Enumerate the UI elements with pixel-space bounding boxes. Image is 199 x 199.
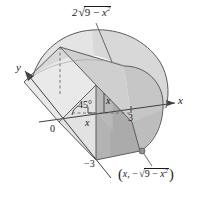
top-expression-radical: √9 − x2 <box>78 6 112 19</box>
label-tick-3: 3 <box>128 113 133 123</box>
label-height-x: x <box>106 96 110 106</box>
top-expression-radicand: 9 − x2 <box>84 6 112 18</box>
point-radicand-main: 9 − <box>145 168 161 179</box>
point-close-paren: ) <box>169 166 174 182</box>
label-x-axis: x <box>178 95 183 106</box>
label-y-axis: y <box>16 62 21 73</box>
label-tick-negative-3: −3 <box>84 159 95 169</box>
label-angle-45: 45° <box>78 100 92 110</box>
label-depth-x: x <box>85 118 89 128</box>
top-expression-radicand-main: 9 − <box>85 6 102 18</box>
angle-45-text: 45° <box>78 99 92 110</box>
top-expression-exponent: 2 <box>107 5 110 12</box>
label-top-expression: 2√9 − x2 <box>72 6 111 19</box>
point-exponent: 2 <box>165 167 168 174</box>
marked-point <box>139 148 145 154</box>
point-radical: √9 − x2 <box>138 168 169 180</box>
label-origin: 0 <box>50 124 55 134</box>
figure-canvas: 2√9 − x2 y x 0 45° 3 −3 x x (x, −√9 − x2… <box>0 0 199 199</box>
point-radicand: 9 − x2 <box>144 168 169 179</box>
label-point-expression: (x, −√9 − x2) <box>118 168 174 180</box>
